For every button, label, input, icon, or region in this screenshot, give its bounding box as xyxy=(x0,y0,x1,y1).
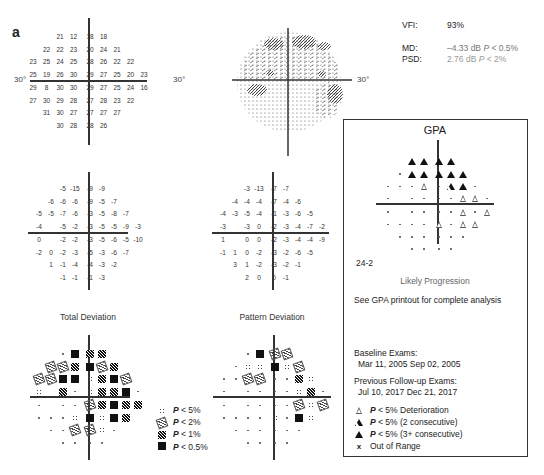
grid-symbol xyxy=(269,387,281,397)
triangle-open-icon xyxy=(460,195,466,202)
triangle-filled-icon xyxy=(447,158,455,165)
psd-value: 2.76 dB P < 2% xyxy=(447,54,506,64)
md-value: –4.33 dB P < 0.5% xyxy=(447,43,518,53)
grid-symbol xyxy=(418,194,430,204)
grid-symbol xyxy=(457,169,469,179)
probability-legend: P < 5%P < 2%P < 1%P < 0.5% xyxy=(155,405,245,475)
grid-symbol xyxy=(293,362,305,372)
p-5-percent-icon xyxy=(284,364,290,370)
normal-dot-icon xyxy=(235,366,237,368)
grid-symbol xyxy=(281,387,293,397)
grid-symbol xyxy=(254,374,266,384)
psd-label: PSD: xyxy=(402,54,422,64)
grid-symbol xyxy=(269,413,281,423)
legend-text: P < 5% xyxy=(173,405,201,415)
grid-symbol xyxy=(433,244,445,254)
normal-dot-icon xyxy=(286,378,288,380)
grid-value: 23 xyxy=(65,46,83,54)
grid-symbol xyxy=(305,374,317,384)
grid-symbol xyxy=(269,425,281,435)
psd-p-rest: < 2% xyxy=(484,54,506,64)
normal-dot-icon xyxy=(411,198,413,200)
normal-dot-icon xyxy=(450,198,452,200)
grid-symbol xyxy=(406,207,418,217)
grid-value: 23 xyxy=(135,71,153,79)
grid-symbol xyxy=(242,374,254,384)
normal-dot-icon xyxy=(423,248,425,250)
grid-symbol xyxy=(418,244,430,254)
legend-symbol xyxy=(155,429,169,439)
grid-symbol xyxy=(281,362,293,372)
normal-dot-icon xyxy=(474,186,476,188)
grid-symbol xyxy=(481,207,493,217)
grid-symbol xyxy=(254,362,266,372)
grid-symbol xyxy=(254,400,266,410)
normal-dot-icon xyxy=(399,224,401,226)
grid-symbol xyxy=(469,194,481,204)
normal-dot-icon xyxy=(438,236,440,238)
grid-symbol xyxy=(254,413,266,423)
grid-symbol xyxy=(269,374,281,384)
normal-dot-icon xyxy=(274,442,276,444)
triangle-filled-icon xyxy=(420,158,428,165)
triangle-open-icon xyxy=(460,209,466,216)
normal-dot-icon xyxy=(247,417,249,419)
legend-text: P < 1% xyxy=(173,429,201,439)
grid-symbol xyxy=(281,425,293,435)
gpa-note: See GPA printout for complete analysis xyxy=(354,295,501,305)
p-2-percent-icon xyxy=(156,416,169,429)
p-5-percent-icon xyxy=(308,376,314,382)
psd-db: 2.76 dB xyxy=(447,54,476,64)
p-1-percent-icon xyxy=(158,431,166,439)
normal-dot-icon xyxy=(450,236,452,238)
grid-symbol xyxy=(382,181,394,191)
grid-symbol xyxy=(269,400,281,410)
triangle-open-icon xyxy=(421,183,427,190)
grid-symbol xyxy=(445,244,457,254)
out-of-range-icon: x xyxy=(357,442,361,451)
grid-value: 21 xyxy=(108,46,126,54)
grid-symbol xyxy=(305,400,317,410)
grid-value: 27 xyxy=(108,109,126,117)
grid-value: 22 xyxy=(122,58,140,66)
grid-symbol xyxy=(230,374,242,384)
grid-symbol xyxy=(433,207,445,217)
legend-symbol xyxy=(155,405,169,415)
normal-dot-icon xyxy=(259,430,261,432)
legend-item: P < 5% Deterioration xyxy=(352,405,449,415)
normal-dot-icon xyxy=(247,430,249,432)
grid-symbol xyxy=(406,244,418,254)
p-5-percent-icon xyxy=(272,415,278,421)
normal-dot-icon xyxy=(474,211,476,213)
grid-symbol xyxy=(433,181,445,191)
grid-symbol xyxy=(433,157,445,167)
triangle-half-icon xyxy=(447,183,455,190)
legend-symbol xyxy=(352,429,366,439)
grid-value: 25 xyxy=(65,58,83,66)
grid-symbol xyxy=(418,157,430,167)
normal-dot-icon xyxy=(247,353,249,355)
legend-item: P < 2% xyxy=(155,417,201,428)
grid-symbol xyxy=(469,220,481,230)
normal-dot-icon xyxy=(399,186,401,188)
grid-value: -6 xyxy=(289,198,307,206)
grid-symbol xyxy=(445,181,457,191)
p-1-percent-icon xyxy=(295,375,303,383)
normal-dot-icon xyxy=(462,236,464,238)
triangle-filled-icon xyxy=(355,431,363,438)
normal-dot-icon xyxy=(274,430,276,432)
normal-dot-icon xyxy=(399,173,401,175)
normal-dot-icon xyxy=(387,224,389,226)
grid-symbol xyxy=(218,374,230,384)
normal-dot-icon xyxy=(399,236,401,238)
p-2-percent-icon xyxy=(293,399,306,412)
grid-symbol xyxy=(254,438,266,448)
grid-value: -1 xyxy=(289,261,307,269)
grid-symbol xyxy=(418,169,430,179)
normal-dot-icon xyxy=(411,248,413,250)
p-5-percent-icon xyxy=(296,389,302,395)
grid-symbol xyxy=(433,232,445,242)
grid-value: -5 xyxy=(301,210,319,218)
grid-symbol xyxy=(394,232,406,242)
grid-value: -5 xyxy=(301,249,319,257)
